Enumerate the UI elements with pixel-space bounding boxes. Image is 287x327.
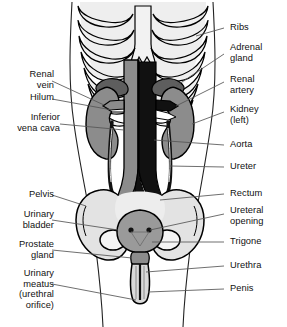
label-urinary-meatus: Urinary meatus (urethral orifice): [0, 268, 54, 310]
label-renal-artery: Renal artery: [230, 74, 287, 95]
label-kidney-left: Kidney (left): [230, 104, 287, 125]
label-adrenal-gland: Adrenal gland: [230, 42, 287, 63]
anatomy-diagram: Renal vein Hilum Inferior vena cava Pelv…: [0, 0, 287, 327]
label-renal-vein: Renal vein: [0, 69, 54, 90]
label-pelvis: Pelvis: [0, 189, 54, 200]
label-urethra: Urethra: [230, 260, 287, 271]
label-rectum: Rectum: [230, 188, 287, 199]
label-prostate-gland: Prostate gland: [0, 239, 54, 260]
label-penis: Penis: [230, 283, 287, 294]
label-trigone: Trigone: [230, 236, 287, 247]
label-urinary-bladder: Urinary bladder: [0, 209, 54, 230]
label-ureter: Ureter: [230, 161, 287, 172]
label-ureteral-opening: Ureteral opening: [230, 205, 287, 226]
label-ribs: Ribs: [230, 22, 287, 33]
label-inferior-vena-cava: Inferior vena cava: [0, 112, 60, 133]
sternum: [131, 6, 155, 64]
prostate-gland: [131, 252, 150, 265]
label-aorta: Aorta: [230, 139, 287, 150]
penis: [131, 264, 150, 304]
label-hilum: Hilum: [0, 92, 54, 103]
